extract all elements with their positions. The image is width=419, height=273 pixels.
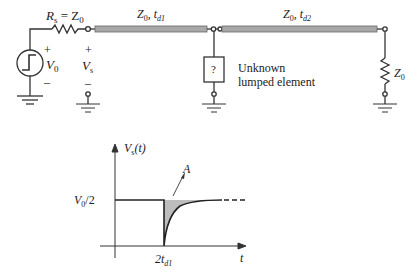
ground-icon [202, 104, 226, 112]
graph-xtick-2td1: 2td1 [155, 252, 172, 268]
line2-label: Z0, td2 [283, 7, 311, 23]
voltage-source-icon [17, 50, 43, 76]
transmission-line-1 [95, 26, 207, 32]
ground-icon [373, 104, 397, 112]
annotation-label-a: A [182, 162, 191, 176]
junction-terminal-left [211, 27, 215, 31]
step-glyph [22, 55, 36, 70]
lumped-caption-line2: lumped element [238, 75, 316, 89]
load-resistor [381, 58, 389, 84]
lumped-question-mark: ? [211, 63, 216, 75]
ground-icon [17, 96, 43, 104]
load-terminal-top [383, 27, 387, 31]
vs-minus: – [84, 76, 92, 90]
lumped-caption-line1: Unknown [238, 61, 285, 75]
transmission-line-2 [222, 26, 377, 32]
circuit [17, 25, 397, 112]
source-minus: – [43, 75, 51, 89]
diagram-canvas: Rs = Z0 + V0 – + Vs – Z0, td1 Z0, td2 ? … [0, 0, 419, 273]
vs-label: Vs [82, 58, 93, 75]
source-plus: + [44, 43, 51, 57]
vs-terminal [86, 27, 91, 32]
vs-plus: + [85, 43, 92, 57]
graph-xlabel: t [240, 251, 244, 265]
graph-ylabel: Vs(t) [124, 141, 146, 157]
line1-label: Z0, td1 [137, 7, 165, 23]
source-label: V0 [46, 57, 59, 74]
vs-graph: Vs(t) V0/2 2td1 t A [74, 141, 246, 268]
annotation-arrow [173, 176, 183, 196]
load-ground-terminal [383, 92, 387, 96]
graph-ytick-v0-half: V0/2 [74, 193, 95, 209]
junction-terminal-right [218, 27, 222, 31]
load-label: Z0 [394, 66, 405, 82]
ground-icon [76, 104, 100, 112]
source-resistor [52, 25, 85, 33]
vs-ground-terminal [86, 92, 90, 96]
lumped-ground-terminal [212, 92, 216, 96]
source-resistor-label: Rs = Z0 [45, 8, 84, 25]
shaded-area-a [164, 200, 222, 246]
